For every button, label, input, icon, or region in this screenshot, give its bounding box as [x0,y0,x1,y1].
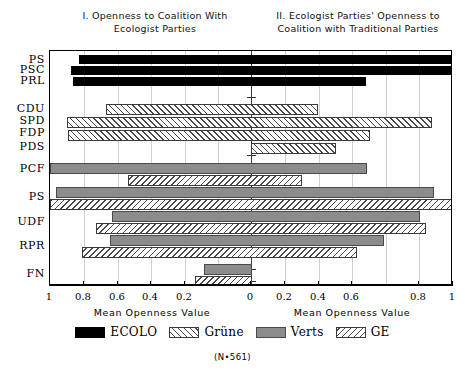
chart-legend: ECOLOGrüneVertsGE [0,322,465,342]
legend-label-ge: GE [371,325,390,339]
legend-swatch-verts [256,327,286,338]
bar-ps2-ge [50,199,452,210]
legend-label-ecolo: ECOLO [110,325,157,339]
legend-item-ge: GE [336,325,390,339]
axis-tick [418,281,419,286]
value-axis: 10.80.60.40.200.20.40.60.81 Mean Opennes… [0,285,465,315]
axis-tick-label: 1 [46,291,52,302]
axis-tick-label: 1 [449,291,455,302]
legend-item-verts: Verts [256,325,324,339]
axis-tick-label: 0.6 [109,291,125,302]
bar-cdu-grune [106,104,318,115]
axis-tick-label: 0.8 [75,291,91,302]
bar-udf-ge [96,223,426,234]
axis-tick-label: 0.4 [142,291,158,302]
axis-caption-left: Mean Openness Value [94,307,211,318]
axis-tick [117,281,118,286]
panel-title-right: II. Ecologist Parties' Openness to Coali… [258,10,458,35]
bar-udf-verts [112,211,420,222]
legend-item-ecolo: ECOLO [75,325,157,339]
axis-tick [150,281,151,286]
axis-tick [351,281,352,286]
axis-tick-label: 0.2 [176,291,192,302]
axis-tick [284,281,285,286]
axis-tick [184,281,185,286]
bar-fdp-grune [68,130,370,141]
legend-swatch-ge [336,327,366,338]
category-label-pcf-7: PCF [1,162,45,175]
category-label-fn-11: FN [1,267,45,280]
legend-label-grune: Grüne [204,325,243,339]
axis-tick-label: 0.6 [343,291,359,302]
bar-pcf-verts [50,163,367,174]
bar-prl-ecolo [73,77,366,86]
bar-psc-ecolo [71,66,452,75]
bar-spd-grune [67,117,432,128]
panel-title-left: I. Openness to Coalition With Ecologist … [60,10,250,35]
axis-tick [452,281,453,286]
gridline [419,51,420,284]
category-label-pds-6: PDS [1,140,45,153]
axis-caption-right: Mean Openness Value [294,307,411,318]
center-axis-tick [247,155,256,156]
axis-tick-label: 0.4 [310,291,326,302]
bar-pds-grune [251,143,336,154]
axis-tick-label: 0 [247,291,253,302]
category-label-prl-2: PRL [1,74,45,87]
axis-tick-label: 0.8 [410,291,426,302]
category-label-ps-8: PS [1,190,45,203]
category-label-rpr-10: RPR [1,239,45,252]
bar-fn-ge [195,276,252,285]
category-label-fdp-5: FDP [1,126,45,139]
legend-swatch-grune [169,327,199,338]
bar-pcf-ge [128,175,302,186]
bar-ps2-verts [56,187,434,198]
bar-rpr-verts [110,235,384,246]
axis-tick-label: 0.2 [276,291,292,302]
plot-area [49,50,452,285]
legend-item-grune: Grüne [169,325,243,339]
category-label-udf-9: UDF [1,215,45,228]
bar-rpr-ge [82,247,357,258]
sample-size-note: (N•561) [0,352,465,362]
axis-tick [318,281,319,286]
legend-label-verts: Verts [291,325,324,339]
gridline [386,51,387,284]
legend-swatch-ecolo [75,327,105,338]
axis-tick [83,281,84,286]
bar-fn-verts [204,264,252,275]
chart-figure: I. Openness to Coalition With Ecologist … [0,0,465,381]
center-axis-tick [247,97,256,98]
bar-ps-ecolo [79,55,452,64]
category-axis-labels: PSPSCPRLCDUSPDFDPPDSPCFPSUDFRPRFN [0,50,45,285]
axis-tick [250,281,251,286]
axis-tick [49,281,50,286]
